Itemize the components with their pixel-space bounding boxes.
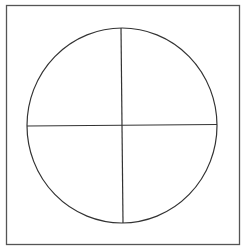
horizontal-divider (27, 125, 217, 127)
circle-quadrant-diagram (0, 0, 246, 252)
